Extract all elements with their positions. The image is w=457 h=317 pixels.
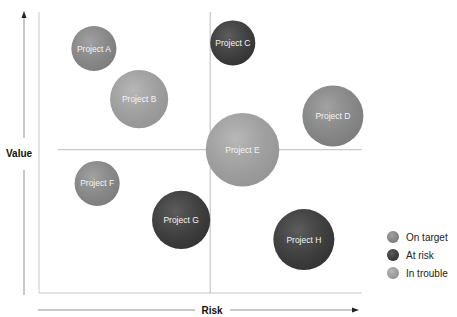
value-arrowhead-icon xyxy=(22,11,27,18)
bubble-label: Project B xyxy=(122,94,157,104)
bubble-project-e: Project E xyxy=(206,113,280,187)
risk-arrowhead-icon xyxy=(352,308,359,313)
legend-swatch-shading xyxy=(387,267,399,279)
legend-item-on-target: On target xyxy=(387,231,448,243)
risk-axis-arrow xyxy=(38,308,359,313)
bubble-label: Project C xyxy=(215,38,250,48)
bubble-project-f: Project F xyxy=(75,161,120,206)
bubble-label: Project F xyxy=(80,178,114,188)
bubble-project-d: Project D xyxy=(302,85,363,146)
bubble-label: Project A xyxy=(77,44,111,54)
bubble-project-h: Project H xyxy=(273,209,334,270)
bubble-label: Project D xyxy=(315,111,350,121)
legend-swatch-shading xyxy=(387,231,399,243)
bubble-label: Project H xyxy=(286,235,321,245)
bubble-project-a: Project A xyxy=(71,26,116,71)
bubble-project-c: Project C xyxy=(210,20,255,65)
legend-label: At risk xyxy=(406,250,435,261)
y-axis-title: Value xyxy=(6,148,33,159)
bubble-project-b: Project B xyxy=(110,70,168,128)
legend-item-in-trouble: In trouble xyxy=(387,267,448,279)
legend: On targetAt riskIn trouble xyxy=(387,231,448,279)
legend-swatch-shading xyxy=(387,249,399,261)
bubbles-layer: Project AProject BProject CProject DProj… xyxy=(71,20,363,270)
bubble-label: Project E xyxy=(225,145,260,155)
legend-label: On target xyxy=(406,232,448,243)
bubble-project-g: Project G xyxy=(152,191,210,249)
bubble-chart: Value Risk Project AProject BProject CPr… xyxy=(0,0,457,317)
bubble-label: Project G xyxy=(163,215,198,225)
legend-item-at-risk: At risk xyxy=(387,249,435,261)
x-axis-title: Risk xyxy=(201,305,223,316)
legend-label: In trouble xyxy=(406,268,448,279)
